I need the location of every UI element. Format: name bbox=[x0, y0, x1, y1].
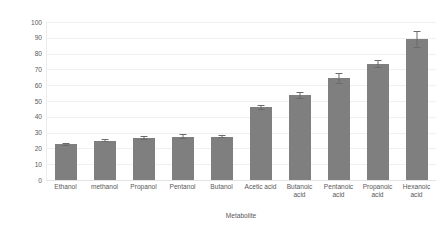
x-axis-tick-label: Pentanol bbox=[163, 183, 202, 191]
bar bbox=[133, 138, 155, 180]
error-bar bbox=[179, 134, 186, 139]
bar-group bbox=[397, 22, 436, 180]
y-axis-tick-label: 50 bbox=[22, 98, 42, 105]
bar-group bbox=[319, 22, 358, 180]
x-axis-tick-label: Pentanoic acid bbox=[319, 183, 358, 200]
error-bar-cap bbox=[62, 145, 69, 146]
bar-group bbox=[241, 22, 280, 180]
y-axis-tick-labels: 1009080706050403020100 bbox=[22, 22, 42, 180]
x-axis-tick-label: Butanol bbox=[202, 183, 241, 191]
bar-group bbox=[124, 22, 163, 180]
x-axis-tick-labels: EthanolmethanolPropanolPentanolButanolAc… bbox=[46, 183, 436, 209]
bar bbox=[250, 107, 272, 180]
gridline bbox=[46, 180, 436, 181]
error-bar bbox=[374, 60, 381, 68]
x-axis-tick-label: Propanoic acid bbox=[358, 183, 397, 200]
plot-area bbox=[46, 22, 436, 180]
bar bbox=[55, 144, 77, 180]
y-axis-tick-label: 10 bbox=[22, 161, 42, 168]
x-axis-tick-label: Acetic acid bbox=[241, 183, 280, 191]
y-axis-tick-label: 0 bbox=[22, 177, 42, 184]
y-axis-tick-label: 70 bbox=[22, 66, 42, 73]
bar bbox=[406, 39, 428, 180]
error-bar bbox=[218, 135, 225, 139]
error-bar-cap bbox=[257, 109, 264, 110]
y-axis-tick-label: 30 bbox=[22, 129, 42, 136]
x-axis-tick-label: Propanol bbox=[124, 183, 163, 191]
bars-layer bbox=[46, 22, 436, 180]
error-bar bbox=[140, 136, 147, 141]
bar bbox=[328, 78, 350, 180]
error-bar-cap bbox=[101, 141, 108, 142]
error-bar bbox=[101, 139, 108, 143]
error-bar-cap bbox=[140, 139, 147, 140]
y-axis-tick-label: 40 bbox=[22, 113, 42, 120]
bar-group bbox=[280, 22, 319, 180]
error-bar bbox=[296, 92, 303, 100]
error-bar-cap bbox=[62, 143, 69, 144]
y-axis-tick-label: 20 bbox=[22, 145, 42, 152]
y-axis-tick-label: 100 bbox=[22, 19, 42, 26]
y-axis-tick-label: 80 bbox=[22, 50, 42, 57]
y-axis-tick-label: 60 bbox=[22, 82, 42, 89]
bar-group bbox=[358, 22, 397, 180]
bar bbox=[211, 137, 233, 180]
error-bar-cap bbox=[335, 73, 342, 74]
error-bar-cap bbox=[101, 139, 108, 140]
error-bar-cap bbox=[374, 67, 381, 68]
error-bar-cap bbox=[218, 135, 225, 136]
error-bar-cap bbox=[218, 137, 225, 138]
error-bar-cap bbox=[296, 92, 303, 93]
bar-group bbox=[202, 22, 241, 180]
error-bar bbox=[335, 73, 342, 84]
error-bar-cap bbox=[257, 105, 264, 106]
y-axis-title: Average reduction (%) bbox=[4, 0, 18, 18]
error-bar-cap bbox=[140, 136, 147, 137]
error-bar-line bbox=[416, 31, 417, 48]
error-bar bbox=[413, 31, 420, 48]
x-axis-title: Metabolite bbox=[46, 212, 436, 219]
error-bar-cap bbox=[179, 138, 186, 139]
error-bar-cap bbox=[296, 98, 303, 99]
error-bar-cap bbox=[335, 83, 342, 84]
x-axis-tick-label: Hexanoic acid bbox=[397, 183, 436, 200]
bar-group bbox=[85, 22, 124, 180]
bar-group bbox=[163, 22, 202, 180]
x-axis-tick-label: methanol bbox=[85, 183, 124, 191]
x-axis-tick-label: Butanoic acid bbox=[280, 183, 319, 200]
bar-group bbox=[46, 22, 85, 180]
bar bbox=[289, 95, 311, 180]
error-bar-cap bbox=[374, 60, 381, 61]
bar bbox=[94, 141, 116, 181]
error-bar bbox=[257, 105, 264, 110]
x-axis-tick-label: Ethanol bbox=[46, 183, 85, 191]
bar bbox=[172, 137, 194, 180]
bar bbox=[367, 64, 389, 180]
y-axis-tick-label: 90 bbox=[22, 34, 42, 41]
error-bar bbox=[62, 143, 69, 147]
error-bar-cap bbox=[179, 134, 186, 135]
error-bar-cap bbox=[413, 47, 420, 48]
error-bar-cap bbox=[413, 31, 420, 32]
bar-chart-figure: Average reduction (%) 100908070605040302… bbox=[0, 0, 448, 236]
